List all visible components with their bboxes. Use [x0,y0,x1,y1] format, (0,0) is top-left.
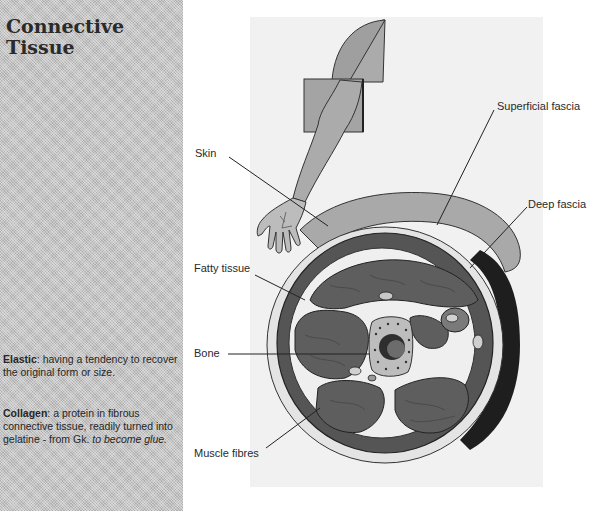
label-skin: Skin [195,147,216,159]
label-bone: Bone [194,347,220,359]
arm-cross-section-diagram [0,0,599,511]
label-fatty-tissue: Fatty tissue [194,262,250,274]
label-muscle-fibres: Muscle fibres [194,447,259,459]
cross-section [267,192,520,463]
label-deep-fascia: Deep fascia [528,198,586,210]
label-superficial-fascia: Superficial fascia [497,100,580,112]
